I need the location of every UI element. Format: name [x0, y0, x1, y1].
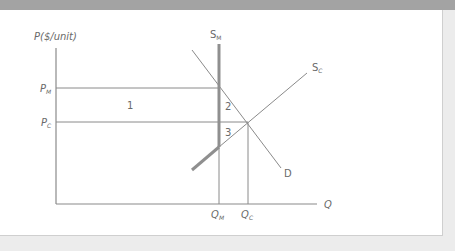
- monopoly-supply-curve-lower: [192, 147, 219, 170]
- region-2-label: 2: [225, 101, 231, 112]
- region-1-label: 1: [127, 100, 133, 111]
- qc-label: QC: [241, 209, 254, 221]
- supply-demand-diagram: P($/unit) SM SC D PM PC 1 2 3 QM QC Q: [0, 0, 471, 251]
- x-axis-label: Q: [324, 199, 332, 210]
- demand-curve: [192, 50, 281, 168]
- pm-label: PM: [40, 83, 52, 95]
- sc-label: SC: [312, 62, 323, 74]
- region-3-label: 3: [225, 127, 231, 138]
- pc-label: PC: [41, 117, 52, 129]
- demand-label: D: [284, 168, 292, 179]
- competitive-supply-curve: [219, 73, 307, 147]
- y-axis-label: P($/unit): [34, 31, 77, 42]
- sm-label: SM: [210, 29, 222, 41]
- qm-label: QM: [211, 209, 225, 221]
